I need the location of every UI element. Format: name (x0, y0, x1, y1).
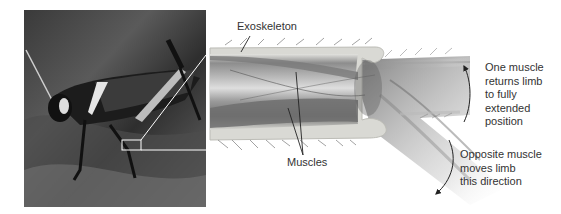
lower-note-line: Opposite muscle (460, 148, 542, 162)
grasshopper-photo (24, 10, 206, 207)
lower-note-line: moves limb (460, 162, 542, 176)
upper-note-line: position (485, 115, 544, 129)
upper-note-line: to fully (485, 88, 544, 102)
lower-note-line: this direction (460, 175, 542, 189)
insect-leg-muscle-diagram: Exoskeleton Muscles One muscle returns l… (0, 0, 561, 214)
upper-note-line: returns limb (485, 75, 544, 89)
exoskeleton-label: Exoskeleton (237, 20, 297, 34)
upper-note-line: One muscle (485, 61, 544, 75)
upper-note-line: extended (485, 102, 544, 116)
upper-note: One muscle returns limb to fully extende… (485, 61, 544, 129)
muscles-label: Muscles (287, 156, 327, 170)
lower-note: Opposite muscle moves limb this directio… (460, 148, 542, 189)
